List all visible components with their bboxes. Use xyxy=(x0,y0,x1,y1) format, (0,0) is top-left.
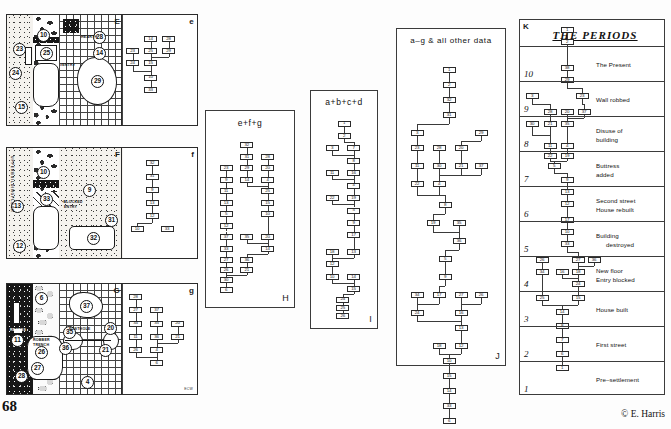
matrix-node: 6 xyxy=(443,418,456,424)
plan-note: ENTRY xyxy=(64,205,77,209)
matrix-edge xyxy=(152,170,153,174)
matrix-panel-f: f 3231913121033 xyxy=(121,148,197,258)
context-marker: 27 xyxy=(31,362,44,375)
period-event: Pre–settlement xyxy=(596,375,660,385)
matrix-edge xyxy=(354,142,355,145)
page-canvas: 23 24 15 10 25 29 28 14 HEARTH #ENTRY E … xyxy=(0,0,671,429)
context-marker: 11 xyxy=(11,334,24,347)
period-row: 2First street xyxy=(520,326,664,361)
matrix-title-J: a–g & all other data xyxy=(397,36,505,45)
matrix-edge xyxy=(343,304,344,305)
context-marker: 26 xyxy=(35,346,48,359)
artist-credit-mark: ECW xyxy=(184,387,193,391)
period-number: 5 xyxy=(524,244,529,254)
matrix-edge xyxy=(332,258,354,259)
matrix-letter-I: I xyxy=(369,314,372,324)
periods-rows: 10The Present9Wall robbed8Disuse ofbuild… xyxy=(520,20,664,394)
matrix-edge xyxy=(152,210,153,214)
matrix-edge xyxy=(343,294,354,295)
matrix-edge xyxy=(417,141,418,146)
matrix-edge xyxy=(268,226,269,234)
matrix-node: 6 xyxy=(220,287,233,293)
matrix-edge xyxy=(343,312,344,313)
matrix-diagram-I: 123781116422195917181312101415242526 xyxy=(314,107,374,314)
context-marker: 24 xyxy=(9,67,22,80)
matrix-edge xyxy=(461,304,462,310)
plan-section-F: 13 12 10 33 9 31 32 •BLOCKED ENTRY U P P… xyxy=(6,147,198,259)
matrix-edge xyxy=(332,283,354,284)
matrix-edge xyxy=(136,343,137,347)
matrix-edge xyxy=(459,232,460,238)
plan-side-label: U P P E R B U I L D I N G F L O O R xyxy=(9,156,14,252)
matrix-edge xyxy=(449,414,450,419)
period-event: New floorEntry blocked xyxy=(596,266,660,285)
matrix-edge xyxy=(137,223,152,224)
matrix-edge xyxy=(433,214,445,215)
matrix-edge xyxy=(354,255,355,258)
matrix-edge xyxy=(354,217,355,220)
matrix-panel-I: a+b+c+d I 123781116422195917181312101415… xyxy=(310,90,378,329)
matrix-panel-g: g 2827373435201136212646 ECW xyxy=(121,284,197,394)
matrix-edge xyxy=(354,179,355,182)
plan-drawing-F: 13 12 10 33 9 31 32 •BLOCKED ENTRY U P P… xyxy=(7,148,123,258)
period-number: 8 xyxy=(524,139,529,149)
period-row: 8Disuse ofbuilding xyxy=(520,116,664,151)
matrix-edge xyxy=(461,321,462,326)
context-marker: 25 xyxy=(40,47,53,60)
matrix-edge xyxy=(247,243,268,244)
context-marker: 12 xyxy=(13,240,26,253)
matrix-edge xyxy=(354,244,355,249)
matrix-node: 26 xyxy=(336,313,349,319)
matrix-edge xyxy=(157,330,158,334)
plan-letter-E: E xyxy=(114,17,120,26)
matrix-edge xyxy=(247,254,248,257)
matrix-edge xyxy=(461,141,462,146)
matrix-edge xyxy=(157,343,158,347)
matrix-diagram-J: 1232313292328201130213722481935365934172… xyxy=(401,49,501,349)
context-marker: 36 xyxy=(59,342,72,355)
period-number: 2 xyxy=(524,349,529,359)
copyright-notice: © E. Harris xyxy=(621,409,665,419)
matrix-edge xyxy=(343,294,344,296)
matrix-edge xyxy=(268,209,269,212)
period-event: Disuse ofbuilding xyxy=(596,126,660,145)
matrix-panel-e: e 142823252924151033 xyxy=(121,15,197,125)
matrix-edge xyxy=(332,155,354,156)
matrix-panel-J: a–g & all other data J 12323132923282011… xyxy=(396,28,506,366)
matrix-edge xyxy=(445,195,446,203)
matrix-edge xyxy=(226,209,227,212)
matrix-edge xyxy=(354,229,355,232)
matrix-edge xyxy=(136,330,137,334)
matrix-edge xyxy=(268,174,269,177)
context-marker: 37 xyxy=(80,300,93,313)
matrix-edge xyxy=(417,124,418,130)
matrix-edge xyxy=(226,186,227,189)
context-marker: 23 xyxy=(13,43,26,56)
plan-note: RECESS xyxy=(10,328,26,332)
period-number: 1 xyxy=(524,384,529,394)
period-number: 9 xyxy=(524,104,529,114)
context-marker: 20 xyxy=(104,322,117,335)
plan-note: ROBBER xyxy=(33,338,50,342)
matrix-edge xyxy=(417,304,439,305)
matrix-edge xyxy=(226,254,227,257)
matrix-edge xyxy=(157,343,178,344)
context-marker: 15 xyxy=(15,101,28,114)
matrix-edge xyxy=(226,232,227,235)
context-marker: 10 xyxy=(37,29,50,42)
matrix-edge xyxy=(226,243,227,246)
matrix-edge xyxy=(433,214,434,220)
matrix-node: 10 xyxy=(131,226,144,232)
matrix-edge xyxy=(445,250,446,256)
matrix-edge xyxy=(445,250,459,251)
matrix-edge xyxy=(439,157,440,163)
period-row: 5Buildingdestroyed xyxy=(520,221,664,256)
plan-letter-G: G xyxy=(114,286,120,295)
matrix-edge xyxy=(354,192,355,195)
matrix-edge xyxy=(481,169,482,175)
matrix-edge xyxy=(449,384,450,389)
matrix-edge xyxy=(417,157,418,163)
matrix-edge xyxy=(354,283,355,286)
matrix-edge xyxy=(439,175,481,176)
matrix-edge xyxy=(445,280,446,286)
